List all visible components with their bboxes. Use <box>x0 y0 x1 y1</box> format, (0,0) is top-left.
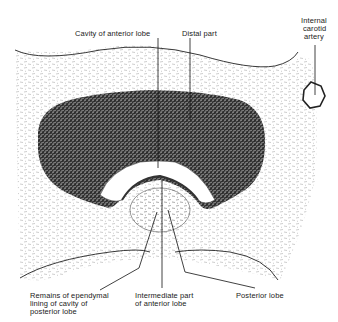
label-intermediate-2: of anterior lobe <box>135 300 187 308</box>
label-posterior-lobe: Posterior lobe <box>236 292 284 300</box>
label-internal-carotid-3: artery <box>304 33 324 41</box>
label-distal-part: Distal part <box>182 30 217 38</box>
pituitary-illustration <box>0 0 338 322</box>
label-cavity-anterior-lobe: Cavity of anterior lobe <box>75 30 150 38</box>
posterior-lobe-region <box>130 188 190 232</box>
label-remains-3: posterior lobe <box>30 308 77 316</box>
